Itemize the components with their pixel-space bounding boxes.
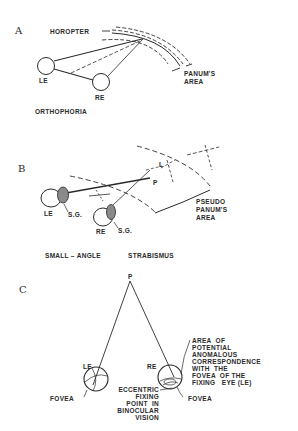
left-eye-label-a: LE [39,77,48,84]
left-eye-label-c: LE [83,363,92,370]
panel-b-letter: B [18,163,25,174]
sg-right-label: S.G. [118,227,132,234]
panel-c-letter: C [19,284,27,295]
p-point-label-c: P [128,273,133,280]
right-eye-label-a: RE [95,94,105,101]
pseudo-panums-label-line3: AREA [196,214,216,221]
l-point-label: L [159,161,163,168]
fovea-left-label: FOVEA [50,395,74,402]
strabismus-caption-part1: SMALL – ANGLE [45,252,101,259]
pseudo-panums-label-line2: PANUM'S [196,206,227,213]
horopter-label: HOROPTER [50,28,89,35]
strabismus-caption-part2: STRABISMUS [128,252,174,259]
left-eye-label-b: LE [44,210,53,217]
eccentric-fixing-label: ECCENTRIC FIXING POINT IN BINOCULAR VISI… [105,386,159,421]
p-point-label-b: P [153,179,158,186]
panel-c-drawing [84,281,190,397]
right-eye-label-b: RE [96,228,106,235]
pseudo-panums-label-line1: PSEUDO [196,198,225,205]
panel-a-drawing [38,27,193,91]
sg-left-label: S.G. [68,211,82,218]
panums-area-label-line1: PANUM'S [184,70,215,77]
anomalous-correspondence-label: AREA OF POTENTIAL ANOMALOUS CORRESPONDEN… [192,337,261,386]
right-eye-label-c: RE [147,363,157,370]
binocular-vision-diagram: A HOROPTER PANUM'S AREA LE RE ORTHOPHORI… [0,0,298,431]
fovea-right-label: FOVEA [188,395,212,402]
orthophoria-caption: ORTHOPHORIA [35,108,87,115]
panums-area-label-line2: AREA [184,78,204,85]
panel-a-letter: A [15,25,22,36]
